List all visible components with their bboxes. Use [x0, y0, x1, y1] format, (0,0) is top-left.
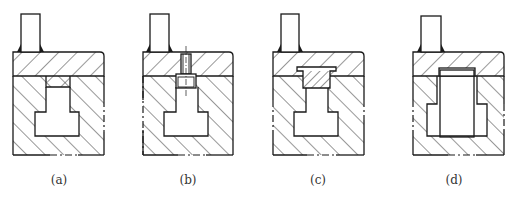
block-insert [440, 70, 474, 137]
panel-label-a: (a) [51, 173, 68, 187]
panel-d [413, 16, 504, 155]
pillar [421, 16, 441, 52]
pillar [150, 14, 169, 52]
panel-label-b: (b) [179, 173, 196, 187]
panel-label-c: (c) [310, 173, 326, 187]
pillar [21, 14, 40, 52]
diagram-canvas [0, 0, 515, 204]
panel-label-d: (d) [445, 173, 462, 187]
panel-b [143, 14, 233, 155]
pillar [281, 14, 299, 52]
weld-right [40, 44, 44, 52]
panel-a [13, 14, 104, 155]
weld-left [17, 44, 21, 52]
base-body [13, 76, 104, 155]
panel-c [273, 14, 364, 155]
